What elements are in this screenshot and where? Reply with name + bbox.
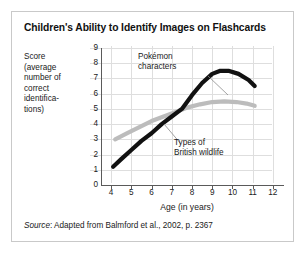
x-tick-label: 11 — [246, 188, 260, 197]
annotation-pokemon-characters: Pokémon characters — [138, 52, 176, 73]
y-axis-caption-line-5: identifica- — [24, 94, 76, 105]
y-axis-caption-line-4: correct — [24, 84, 76, 95]
x-tick-label: 6 — [145, 188, 159, 197]
y-axis-caption-line-2: (average — [24, 63, 76, 74]
y-axis-caption: 4.1 Score (average number of correct ide… — [24, 52, 76, 116]
source-label: Source — [24, 221, 50, 230]
source-note: Source: Adapted from Balmford et al., 20… — [24, 221, 213, 230]
x-tick-label: 5 — [124, 188, 138, 197]
pokemon-leader-line — [208, 76, 228, 95]
y-axis-caption-line-1: Score — [24, 52, 76, 63]
annotation-wildlife-line-1: Types of — [174, 138, 224, 148]
source-text: : Adapted from Balmford et al., 2002, p.… — [50, 221, 213, 230]
y-tick-label: 7 — [86, 73, 98, 82]
annotation-types-of-british-wildlife: Types of British wildlife — [174, 138, 224, 159]
y-tick-label: 3 — [86, 134, 98, 143]
x-tick-label: 8 — [185, 188, 199, 197]
x-tick-label: 7 — [165, 188, 179, 197]
x-tick-label: 10 — [225, 188, 239, 197]
series-lines — [101, 48, 283, 185]
x-tick-label: 12 — [266, 188, 280, 197]
annotation-pokemon-line-1: Pokémon — [138, 52, 176, 62]
figure-card: Children's Ability to Identify Images on… — [11, 11, 294, 242]
y-tick-label: 0 — [86, 180, 98, 189]
y-tick-label: 9 — [86, 43, 98, 52]
annotation-pokemon-line-2: characters — [138, 62, 176, 72]
x-tick-label: 9 — [205, 188, 219, 197]
y-axis-caption-line-6: tions) — [24, 105, 76, 116]
y-axis-caption-line-3: number of — [24, 73, 76, 84]
x-axis-title: Age (in years) — [90, 202, 284, 212]
y-tick-label: 2 — [86, 150, 98, 159]
x-tick-label: 4 — [104, 188, 118, 197]
y-tick-label: 6 — [86, 89, 98, 98]
annotation-wildlife-line-2: British wildlife — [174, 148, 224, 158]
y-tick-label: 8 — [86, 58, 98, 67]
y-tick-label: 5 — [86, 104, 98, 113]
chart-title: Children's Ability to Identify Images on… — [24, 22, 286, 34]
plot-area: 0123456789 456789101112 Pokémon characte… — [90, 46, 284, 198]
y-tick-label: 1 — [86, 165, 98, 174]
y-tick-label: 4 — [86, 119, 98, 128]
